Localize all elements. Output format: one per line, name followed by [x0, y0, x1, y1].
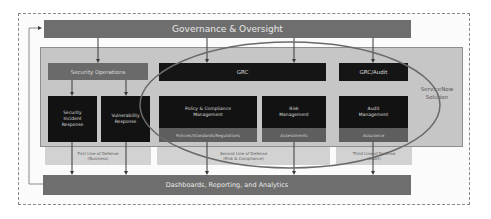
- connector-arrows: [0, 0, 491, 219]
- feedback-loop-arrow: [29, 28, 43, 184]
- servicenow-scope-ellipse: [140, 42, 440, 168]
